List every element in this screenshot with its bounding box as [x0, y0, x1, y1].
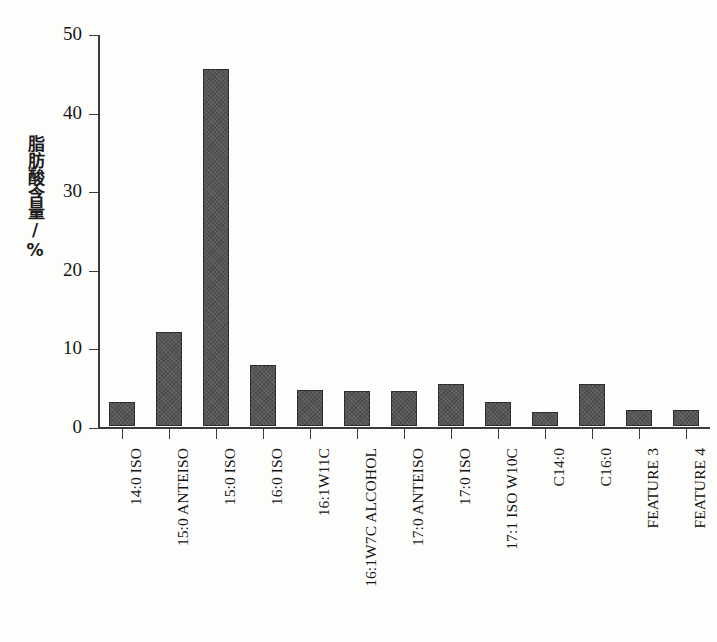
x-tick-label: 14:0 ISO — [128, 448, 144, 505]
x-tick — [498, 428, 499, 439]
bar — [203, 69, 229, 426]
y-tick: 40 — [89, 114, 98, 115]
bar — [250, 365, 276, 426]
x-tick — [451, 428, 452, 439]
y-tick-label: 0 — [73, 417, 83, 437]
y-tick-label: 20 — [63, 260, 82, 280]
x-tick — [404, 428, 405, 439]
x-tick-label: FEATURE 3 — [645, 448, 661, 529]
x-tick-label: C14:0 — [551, 448, 567, 486]
x-tick-label: 16:1W11C — [316, 448, 332, 516]
y-tick-label: 40 — [63, 103, 82, 123]
bar — [579, 384, 605, 426]
y-tick: 20 — [89, 271, 98, 272]
y-tick-label: 50 — [63, 24, 82, 44]
x-tick-label: C16:0 — [598, 448, 614, 486]
x-tick-label: 17:0 ANTEISO — [410, 448, 426, 546]
x-tick — [545, 428, 546, 439]
bar — [485, 402, 511, 426]
y-tick-label: 30 — [63, 181, 82, 201]
y-tick: 10 — [89, 349, 98, 350]
y-axis-title: 脂肪酸含量/% — [14, 135, 44, 260]
bar — [673, 410, 699, 427]
y-tick: 50 — [89, 35, 98, 36]
x-axis-tick-labels: 14:0 ISO15:0 ANTEISO15:0 ISO16:0 ISO16:1… — [98, 448, 710, 638]
plot-area: 01020304050 — [98, 35, 710, 428]
bar — [156, 332, 182, 426]
y-tick: 0 — [89, 428, 98, 429]
x-tick-label: 15:0 ISO — [222, 448, 238, 505]
bar — [532, 412, 558, 426]
x-tick — [169, 428, 170, 439]
x-tick-label: 17:1 ISO W10C — [504, 448, 520, 550]
bar — [438, 384, 464, 426]
y-axis-line — [98, 35, 100, 429]
bar — [626, 410, 652, 427]
bar — [297, 390, 323, 426]
x-tick — [686, 428, 687, 439]
bar — [391, 391, 417, 426]
x-tick-label: 15:0 ANTEISO — [175, 448, 191, 546]
x-tick — [122, 428, 123, 439]
bar — [344, 391, 370, 426]
x-tick-label: 17:0 ISO — [457, 448, 473, 505]
y-tick-label: 10 — [63, 338, 82, 358]
x-tick — [310, 428, 311, 439]
x-tick-label: FEATURE 4 — [692, 448, 708, 529]
x-tick-label: 16:1W7C ALCOHOL — [363, 448, 379, 587]
x-tick — [592, 428, 593, 439]
bar — [109, 402, 135, 426]
x-tick — [357, 428, 358, 439]
bar-chart-figure: 脂肪酸含量/% 01020304050 14:0 ISO15:0 ANTEISO… — [0, 0, 717, 642]
x-tick — [216, 428, 217, 439]
x-tick-label: 16:0 ISO — [269, 448, 285, 505]
y-tick: 30 — [89, 192, 98, 193]
x-tick — [263, 428, 264, 439]
x-tick — [639, 428, 640, 439]
